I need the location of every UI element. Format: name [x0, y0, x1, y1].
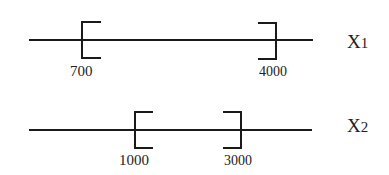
interval-row-x1: 700 4000 X1 — [29, 22, 368, 79]
upper-bound-label: 4000 — [259, 64, 287, 79]
upper-bracket — [258, 23, 276, 59]
variable-label: X1 — [347, 31, 368, 52]
interval-row-x2: 1000 3000 X2 — [29, 112, 368, 168]
lower-bound-label: 700 — [70, 63, 93, 79]
variable-subscript: 2 — [361, 119, 369, 135]
lower-bound-label: 1000 — [119, 152, 149, 168]
upper-bound-label: 3000 — [224, 153, 252, 168]
variable-name: X — [347, 31, 361, 52]
variable-label: X2 — [347, 115, 368, 136]
variable-name: X — [347, 115, 361, 136]
interval-diagram: 700 4000 X1 1000 3000 X2 — [0, 0, 389, 175]
variable-subscript: 1 — [361, 35, 369, 51]
